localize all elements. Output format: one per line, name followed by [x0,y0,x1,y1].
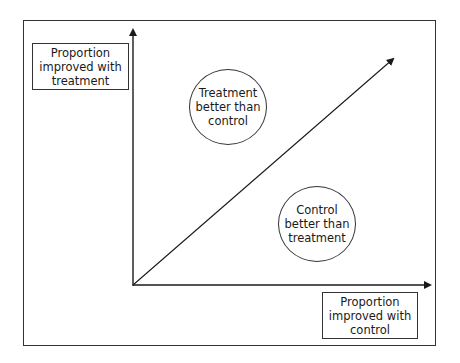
y-axis-label: Proportion improved with treatment [32,43,129,90]
region-treatment-better: Treatment better than control [189,69,267,145]
region-control-better-text: Control better than treatment [285,203,350,245]
x-axis-label: Proportion improved with control [322,292,418,339]
region-control-better: Control better than treatment [278,186,356,262]
x-axis-label-text: Proportion improved with control [329,295,411,337]
y-axis-label-text: Proportion improved with treatment [39,46,121,88]
region-treatment-better-text: Treatment better than control [196,86,261,128]
